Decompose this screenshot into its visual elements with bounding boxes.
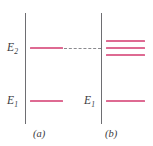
panel-a-axis [25, 13, 26, 124]
energy-level-figure: E2 E1 E1 (a) (b) [0, 0, 153, 146]
panel-b-label-e1-base: E [84, 94, 91, 106]
panel-b-axis [101, 13, 102, 124]
panel-a-label-e1-base: E [7, 94, 14, 106]
dashed-reference-line [64, 48, 101, 49]
panel-b-label-e1-subscript: 1 [91, 100, 95, 109]
panel-a-caption: (a) [33, 129, 45, 140]
panel-a-label-e1-subscript: 1 [14, 100, 18, 109]
panel-a-level-e1 [30, 100, 63, 102]
panel-b-level-e2-upper [106, 40, 145, 42]
panel-b-level-e1 [106, 100, 145, 102]
panel-b-caption: (b) [105, 129, 117, 140]
panel-b-level-e2-lower [106, 54, 145, 56]
panel-a-label-e2: E2 [7, 42, 18, 54]
panel-a-label-e2-base: E [7, 41, 14, 53]
panel-b-label-e1: E1 [84, 95, 95, 107]
panel-a-label-e1: E1 [7, 95, 18, 107]
panel-a-label-e2-subscript: 2 [14, 47, 18, 56]
panel-a-level-e2 [30, 47, 63, 49]
panel-b-level-e2-middle [106, 47, 145, 49]
